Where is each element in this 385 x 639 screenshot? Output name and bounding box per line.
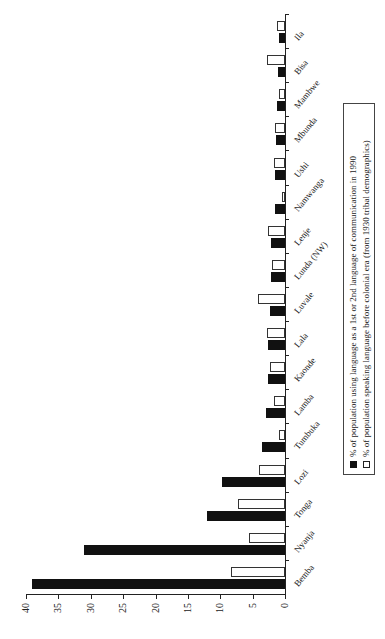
x-tick [285,14,289,15]
bar-precolonial [275,123,285,133]
x-category-label: Mbunda [292,115,319,144]
bar-1990 [271,238,285,248]
x-tick [285,526,289,527]
bar-1990 [32,579,285,589]
bar-precolonial [282,192,285,202]
x-tick [285,185,289,186]
bar-1990 [222,477,285,487]
bar-precolonial [258,294,285,304]
bar-1990 [266,408,285,418]
bar-1990 [279,33,285,43]
x-tick [285,253,289,254]
y-tick [91,595,92,599]
bar-precolonial [259,465,285,475]
x-category-label: Ila [292,29,306,43]
y-tick [285,595,286,599]
x-category-label: Namwanga [292,175,326,213]
y-tick-label: 5 [247,603,258,623]
bar-precolonial [238,499,285,509]
x-tick [285,82,289,83]
y-tick-label: 35 [52,603,63,623]
bar-1990 [262,442,285,452]
bar-1990 [207,511,285,521]
bar-1990 [277,101,285,111]
x-category-label: Tonga [292,497,314,521]
y-tick-label: 30 [85,603,96,623]
x-tick [285,423,289,424]
bar-precolonial [279,430,285,440]
x-category-label: Luvale [292,290,316,316]
x-category-label: Lozi [292,467,310,486]
x-tick [285,458,289,459]
legend-label-precolonial: % of population speaking language before… [361,140,371,457]
legend-swatch-white [363,461,370,468]
legend-item-1990: % of population using language as a 1st … [348,156,358,468]
bar-1990 [268,340,285,350]
bar-1990 [275,204,285,214]
y-tick-label: 20 [150,603,161,623]
legend-swatch-black [350,461,357,468]
y-tick [156,595,157,599]
bar-precolonial [270,362,285,372]
bar-precolonial [249,533,285,543]
y-tick-label: 15 [182,603,193,623]
bar-1990 [275,170,285,180]
bar-precolonial [267,328,285,338]
bar-1990 [271,272,285,282]
x-tick [285,321,289,322]
legend-label-1990: % of population using language as a 1st … [348,156,358,457]
y-tick-label: 25 [117,603,128,623]
x-category-label: Bemba [292,562,316,588]
y-tick [58,595,59,599]
bar-precolonial [231,567,285,577]
bar-precolonial [268,226,285,236]
x-tick [285,492,289,493]
x-tick [285,287,289,288]
y-tick-label: 10 [214,603,225,623]
bar-1990 [268,374,285,384]
x-category-label: Lala [292,331,310,350]
x-tick [285,219,289,220]
bar-precolonial [274,396,285,406]
bar-1990 [278,67,285,77]
x-tick [285,389,289,390]
bar-chart: 0510152025303540 BembaNyanjaTongaLoziTum… [0,0,385,639]
y-tick-label: 0 [279,603,290,623]
x-tick [285,150,289,151]
bar-1990 [84,545,285,555]
x-category-label: Kaonde [292,356,318,384]
x-category-label: Bisa [292,58,310,77]
y-tick [123,595,124,599]
bar-1990 [270,306,285,316]
x-category-label: Ushi [292,159,311,178]
x-tick [285,48,289,49]
x-axis-line [285,15,286,595]
y-tick [188,595,189,599]
y-tick [253,595,254,599]
y-tick-label: 40 [20,603,31,623]
x-category-label: Lamba [292,392,316,418]
x-tick [285,355,289,356]
bar-precolonial [274,158,285,168]
x-category-label: Tumbuka [292,419,322,452]
bar-precolonial [267,55,285,65]
rotated-figure: 0510152025303540 BembaNyanjaTongaLoziTum… [0,0,385,639]
x-category-label: Nyanja [292,528,316,554]
x-tick [285,116,289,117]
bar-precolonial [279,89,285,99]
x-category-label: Mambwe [292,78,322,110]
y-tick [220,595,221,599]
legend: % of population using language as a 1st … [343,103,375,475]
bar-precolonial [277,21,285,31]
x-tick [285,560,289,561]
legend-item-precolonial: % of population speaking language before… [361,140,371,468]
x-category-label: Lenje [292,225,313,247]
bar-precolonial [272,260,285,270]
bar-1990 [276,135,285,145]
y-tick [26,595,27,599]
